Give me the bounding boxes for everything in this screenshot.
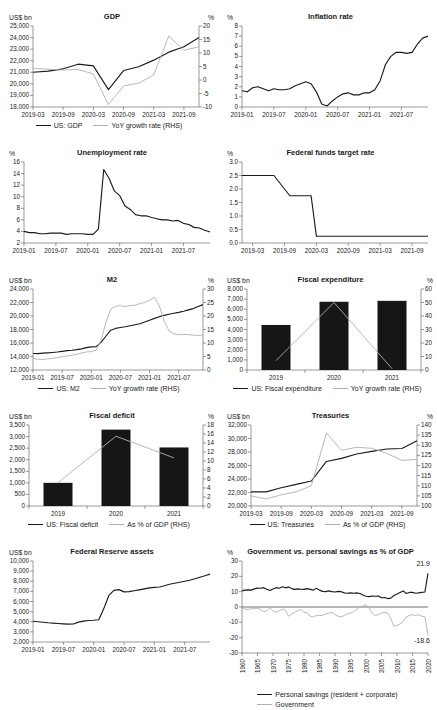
right-axis-unit: %	[363, 277, 434, 284]
svg-text:10: 10	[13, 193, 21, 200]
legend-label: Government	[275, 700, 314, 709]
data-label: 21.9	[416, 560, 430, 567]
chart-legend: US: M2YoY growth rate (RHS)	[0, 384, 218, 393]
svg-text:6: 6	[234, 42, 238, 49]
left-axis-unit: US$ bn	[9, 14, 104, 21]
svg-text:18,000: 18,000	[10, 326, 30, 333]
legend-line-swatch	[109, 524, 124, 526]
svg-text:2.0: 2.0	[229, 185, 238, 192]
legend-line-swatch	[257, 704, 272, 706]
svg-text:2019-01: 2019-01	[21, 646, 45, 653]
left-axis-unit: US$ bn	[9, 277, 107, 284]
svg-text:23,000: 23,000	[10, 45, 30, 52]
svg-text:2019-01: 2019-01	[21, 374, 45, 381]
svg-text:32,000: 32,000	[228, 421, 248, 428]
svg-text:40: 40	[425, 312, 433, 319]
svg-text:2021-03: 2021-03	[360, 510, 384, 517]
svg-text:5: 5	[207, 353, 211, 360]
svg-text:130: 130	[421, 441, 432, 448]
svg-text:6: 6	[16, 216, 20, 223]
svg-text:0.5: 0.5	[229, 226, 238, 233]
svg-text:10: 10	[207, 457, 215, 464]
svg-text:0: 0	[21, 502, 25, 509]
svg-text:10,000: 10,000	[10, 557, 30, 564]
svg-text:125: 125	[421, 451, 432, 458]
legend-line-swatch	[93, 125, 108, 127]
svg-text:20: 20	[425, 339, 433, 346]
svg-text:0: 0	[234, 603, 238, 610]
chart-legend: Personal savings (resident + corporate)G…	[257, 690, 397, 709]
svg-text:1960: 1960	[239, 659, 246, 674]
chart-title: GDP	[104, 12, 120, 21]
svg-text:1: 1	[234, 93, 238, 100]
svg-text:2019-09: 2019-09	[270, 510, 294, 517]
svg-text:2019-01: 2019-01	[12, 247, 36, 254]
svg-text:2019-03: 2019-03	[241, 247, 265, 254]
svg-text:15: 15	[207, 326, 215, 333]
svg-text:1970: 1970	[270, 659, 277, 674]
svg-text:2: 2	[16, 239, 20, 246]
fiscal-expenditure-plot: 01,0002,0003,0004,0005,0006,0007,0008,00…	[218, 284, 436, 384]
svg-text:0: 0	[207, 366, 211, 373]
m2-plot: 12,00014,00016,00018,00020,00022,00024,0…	[0, 284, 218, 384]
legend-item: US: Fiscal expenditure	[233, 384, 321, 393]
svg-text:1985: 1985	[316, 659, 323, 674]
svg-text:20: 20	[231, 572, 239, 579]
svg-text:3.0: 3.0	[229, 158, 238, 165]
chart-title: Fiscal expenditure	[298, 275, 364, 284]
legend-line-swatch	[233, 388, 248, 390]
svg-text:2020: 2020	[425, 659, 432, 674]
svg-text:16: 16	[207, 430, 215, 437]
legend-label: YoY growth rate (RHS)	[351, 384, 422, 393]
svg-text:2021-09: 2021-09	[401, 247, 425, 254]
svg-text:2.5: 2.5	[229, 172, 238, 179]
svg-text:2019-03: 2019-03	[239, 510, 263, 517]
svg-text:1975: 1975	[285, 659, 292, 674]
svg-text:20: 20	[203, 22, 211, 29]
svg-text:22,000: 22,000	[10, 299, 30, 306]
chart-title: M2	[107, 275, 117, 284]
svg-text:-10: -10	[229, 618, 239, 625]
svg-text:4: 4	[16, 227, 20, 234]
svg-text:6,000: 6,000	[13, 598, 29, 605]
legend-line-swatch	[28, 524, 43, 526]
svg-text:2,000: 2,000	[13, 638, 29, 645]
svg-text:24,000: 24,000	[228, 475, 248, 482]
svg-text:2020-01: 2020-01	[294, 111, 318, 118]
legend-item: YoY growth rate (RHS)	[333, 384, 422, 393]
svg-text:18,000: 18,000	[10, 103, 30, 110]
svg-text:0: 0	[239, 366, 243, 373]
chart-grid: US$ bn GDP % 18,00019,00020,00021,00022,…	[0, 0, 437, 709]
svg-text:2,500: 2,500	[9, 444, 25, 451]
svg-text:14: 14	[207, 439, 215, 446]
legend-label: YoY growth rate (RHS)	[111, 121, 182, 130]
svg-text:21,000: 21,000	[10, 68, 30, 75]
svg-text:2021-07: 2021-07	[172, 247, 196, 254]
svg-text:2021-07: 2021-07	[173, 646, 197, 653]
svg-text:18: 18	[207, 421, 215, 428]
svg-text:2020-03: 2020-03	[82, 111, 106, 118]
right-axis-unit: %	[349, 413, 434, 420]
svg-text:-20: -20	[229, 634, 239, 641]
svg-text:115: 115	[421, 472, 432, 479]
legend-item: Personal savings (resident + corporate)	[257, 690, 397, 699]
svg-text:7: 7	[234, 32, 238, 39]
legend-item: As % of GDP (RHS)	[325, 520, 406, 529]
svg-text:8: 8	[207, 466, 211, 473]
chart-title: Treasuries	[312, 411, 350, 420]
legend-item: As % of GDP (RHS)	[109, 520, 190, 529]
svg-text:7,000: 7,000	[13, 587, 29, 594]
chart-title: Inflation rate	[308, 12, 353, 21]
svg-text:6,000: 6,000	[227, 305, 243, 312]
legend-label: US: Fiscal deficit	[46, 520, 98, 529]
svg-text:30: 30	[207, 285, 215, 292]
left-axis-unit: %	[9, 150, 77, 157]
left-axis-unit: US$ bn	[9, 549, 70, 556]
svg-text:2: 2	[207, 493, 211, 500]
svg-text:2: 2	[234, 83, 238, 90]
legend-item: US: GDP	[36, 121, 83, 130]
svg-text:2019-03: 2019-03	[21, 111, 45, 118]
fed-assets-plot: 2,0003,0004,0005,0006,0007,0008,0009,000…	[0, 556, 218, 656]
chart-unemployment-rate: % Unemployment rate 2468101214162019-012…	[0, 142, 218, 257]
svg-text:120: 120	[421, 462, 432, 469]
